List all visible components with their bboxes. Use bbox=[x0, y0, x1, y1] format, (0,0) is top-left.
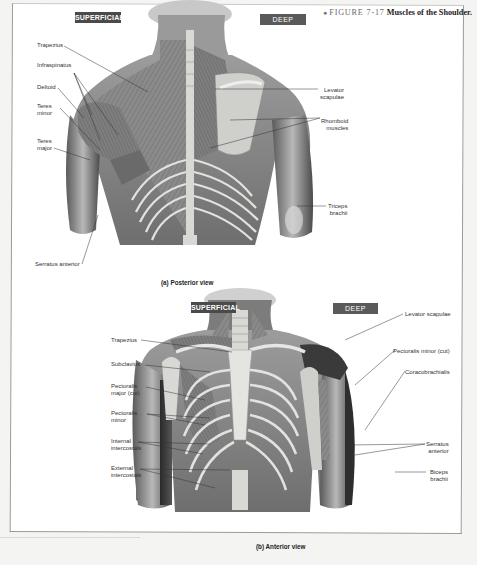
anterior-figure bbox=[132, 288, 354, 512]
label-pectoralis-minor-cut: Pectoralis minor (cut) bbox=[393, 348, 450, 355]
label-internal-intercostals: Internal intercostals bbox=[111, 438, 141, 452]
figure-bullet: ● bbox=[323, 9, 327, 17]
label-trapezius-posterior: Trapezius bbox=[37, 42, 63, 49]
label-subclavius: Subclavius bbox=[111, 361, 140, 368]
label-levator-scapulae-anterior: Levator scapulae bbox=[405, 311, 451, 318]
label-biceps-brachii: Biceps brachii bbox=[430, 469, 448, 483]
label-levator-scapulae-posterior: Levator scapulae bbox=[320, 87, 344, 101]
label-trapezius-anterior: Trapezius bbox=[111, 337, 137, 344]
figure-title: ● FIGURE 7-17 Muscles of the Shoulder. bbox=[323, 8, 472, 17]
label-serratus-anterior-posterior: Serratus anterior bbox=[35, 261, 80, 268]
label-teres-major: Teres major bbox=[37, 138, 52, 152]
posterior-superficial-badge: SUPERFICIAL bbox=[75, 12, 121, 23]
anterior-deep-badge: DEEP bbox=[333, 303, 378, 314]
posterior-figure bbox=[66, 0, 313, 245]
anterior-caption: (b) Anterior view bbox=[256, 543, 305, 550]
figure-number: FIGURE 7-17 bbox=[329, 8, 384, 17]
posterior-caption: (a) Posterior view bbox=[161, 279, 214, 286]
label-serratus-anterior-anterior: Serratus anterior bbox=[426, 441, 449, 455]
label-pectoralis-major-cut: Pectoralis major (cut) bbox=[111, 383, 140, 397]
anterior-superficial-badge: SUPERFICIAL bbox=[191, 302, 236, 313]
label-external-intercostals: External intercostals bbox=[111, 465, 141, 479]
label-triceps-brachii: Triceps brachii bbox=[328, 203, 347, 217]
posterior-deep-badge: DEEP bbox=[260, 14, 306, 25]
label-rhomboid-muscles: Rhomboid muscles bbox=[321, 118, 348, 132]
label-pectoralis-minor: Pectoralis minor bbox=[111, 410, 137, 424]
label-infraspinatus: Infraspinatus bbox=[37, 62, 71, 69]
figure-name: Muscles of the Shoulder. bbox=[387, 8, 472, 17]
label-teres-minor: Teres minor bbox=[37, 103, 52, 117]
label-deltoid: Deltoid bbox=[37, 84, 56, 91]
label-coracobrachialis: Coracobrachialis bbox=[405, 369, 450, 376]
anatomy-illustrations bbox=[0, 0, 477, 565]
